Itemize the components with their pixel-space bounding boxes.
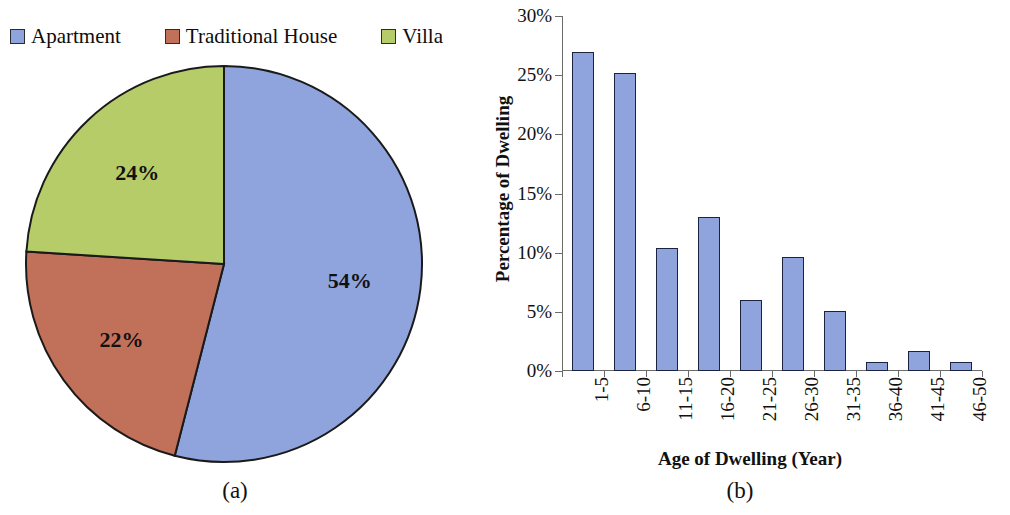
legend-item-villa: Villa [381,26,443,47]
pie-value-label: 22% [100,327,144,352]
bar [908,351,930,371]
legend-swatch-traditional-house [165,29,180,44]
y-tick-mark [555,371,562,372]
x-tick-label: 36-40 [885,377,907,421]
legend-label-traditional-house: Traditional House [186,26,337,47]
bar [656,248,678,371]
y-tick-label: 0% [490,361,552,380]
bar [950,362,972,371]
x-tick-label: 6-10 [633,377,655,412]
bar-plot-region [562,16,982,371]
caption-panel-a: (a) [0,478,470,504]
pie-plot-area: 54%22%24% [22,62,426,466]
figure-container: Apartment Traditional House Villa 54%22%… [0,0,1010,515]
y-axis-tick-labels: 0%5%10%15%20%25%30% [490,0,552,470]
bar-chart-area: Percentage of Dwelling 0%5%10%15%20%25%3… [470,0,1010,470]
legend-swatch-villa [381,29,396,44]
y-tick-label: 10% [490,243,552,262]
x-tick-label: 41-45 [927,377,949,421]
caption-panel-b: (b) [470,478,1010,504]
y-tick-label: 30% [490,6,552,25]
bar [614,73,636,371]
x-tick-label: 11-15 [675,377,697,421]
bar [572,52,594,372]
x-tick-label: 46-50 [969,377,991,421]
y-tick-mark [555,134,562,135]
legend-item-traditional-house: Traditional House [165,26,337,47]
bar [740,300,762,371]
x-tick-label: 16-20 [717,377,739,421]
pie-value-label: 54% [328,268,372,293]
bar [698,217,720,371]
legend-label-apartment: Apartment [31,26,121,47]
bar [782,257,804,371]
legend-item-apartment: Apartment [10,26,121,47]
panel-b-bar-chart: Percentage of Dwelling 0%5%10%15%20%25%3… [470,0,1010,515]
legend-label-villa: Villa [402,26,443,47]
pie-value-label: 24% [115,160,159,185]
x-tick-label: 1-5 [591,377,613,402]
y-tick-label: 25% [490,65,552,84]
panel-a-pie-chart: Apartment Traditional House Villa 54%22%… [0,0,470,515]
x-tick-label: 21-25 [759,377,781,421]
pie-svg: 54%22%24% [22,62,426,466]
y-tick-mark [555,75,562,76]
y-tick-label: 5% [490,302,552,321]
x-tick-label: 26-30 [801,377,823,421]
y-tick-label: 20% [490,124,552,143]
y-axis-line [562,16,563,371]
y-tick-mark [555,194,562,195]
pie-legend: Apartment Traditional House Villa [6,26,461,47]
x-tick-label: 31-35 [843,377,865,421]
y-tick-mark [555,16,562,17]
bar [824,311,846,371]
x-axis-tick-labels: 1-56-1011-1516-2021-2526-3031-3536-4041-… [562,377,982,447]
y-tick-mark [555,312,562,313]
y-tick-label: 15% [490,184,552,203]
y-tick-mark [555,253,562,254]
legend-swatch-apartment [10,29,25,44]
bar [866,362,888,371]
x-axis-title: Age of Dwelling (Year) [510,448,990,470]
